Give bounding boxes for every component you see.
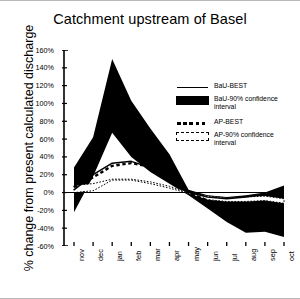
x-axis-tick-label: mar <box>153 248 162 261</box>
y-axis-tick-label: 60% <box>28 136 54 143</box>
chart-legend: BaU-BEST BaU-90% confidence interval AP-… <box>176 81 296 147</box>
y-axis-tick-label: 140% <box>28 64 54 71</box>
y-axis-tick-labels: 160%140%120%100%80%60%40%20%0%-20%-40%-6… <box>28 43 54 253</box>
x-axis-tick-label: jan <box>115 251 124 261</box>
y-axis-spine <box>62 50 68 246</box>
y-axis-tick-label: -60% <box>28 243 54 250</box>
y-axis-tick-label: -20% <box>28 207 54 214</box>
chart-title: Catchment upstream of Basel <box>0 11 300 27</box>
plot-area <box>62 50 286 246</box>
y-axis-tick-label: -40% <box>28 225 54 232</box>
x-axis-ticks <box>74 242 284 246</box>
x-axis-tick-label: jun <box>211 251 220 261</box>
dotted-line-swatch <box>176 118 209 129</box>
y-axis-tick-label: 100% <box>28 100 54 107</box>
x-axis-tick-label: dec <box>96 249 105 261</box>
legend-item-bau-ci: BaU-90% confidence interval <box>176 94 296 110</box>
x-axis-tick-label: jul <box>230 254 239 261</box>
x-axis-tick-label: aug <box>249 249 258 261</box>
x-axis-tick-labels: novdecjanfebmaraprmayjunjulaugsepoct <box>62 259 286 299</box>
x-axis-tick-label: feb <box>134 251 143 261</box>
dashed-rect-swatch <box>176 132 209 141</box>
y-axis-tick-label: 0% <box>28 189 54 196</box>
legend-label: AP-90% confidence interval <box>214 130 296 146</box>
y-axis-tick-label: 120% <box>28 82 54 89</box>
legend-item-ap-best: AP-BEST <box>176 117 296 129</box>
filled-rect-swatch <box>176 96 209 105</box>
x-axis-tick-label: apr <box>172 250 181 261</box>
y-axis-tick-label: 40% <box>28 153 54 160</box>
x-axis-tick-label: nov <box>77 249 86 261</box>
y-axis-tick-label: 160% <box>28 47 54 54</box>
y-axis-tick-label: 80% <box>28 118 54 125</box>
x-axis-tick-label: oct <box>287 251 296 261</box>
legend-item-ap-ci: AP-90% confidence interval <box>176 130 296 146</box>
legend-label: AP-BEST <box>214 117 243 126</box>
x-axis-tick-label: may <box>192 247 201 261</box>
legend-label: BaU-90% confidence interval <box>214 94 296 110</box>
legend-item-bau-best: BaU-BEST <box>176 81 296 93</box>
chart-figure: Catchment upstream of Basel % change fro… <box>0 0 300 299</box>
legend-label: BaU-BEST <box>214 81 247 90</box>
x-axis-tick-label: sep <box>268 249 277 261</box>
chart-plot-svg <box>62 50 286 246</box>
y-axis-tick-label: 20% <box>28 171 54 178</box>
solid-line-swatch <box>176 82 209 93</box>
